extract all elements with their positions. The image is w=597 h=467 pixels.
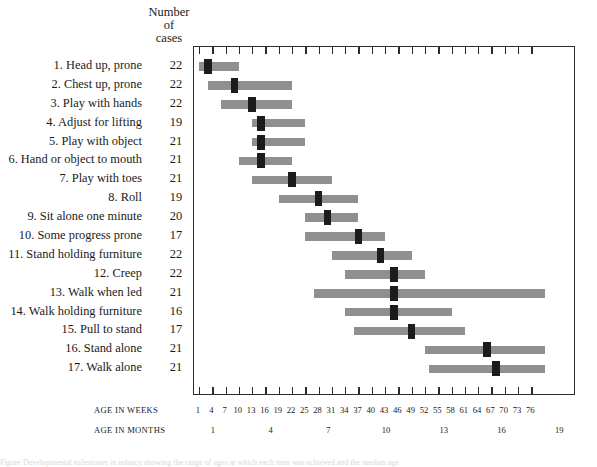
milestone-case-count: 21 bbox=[165, 285, 187, 300]
milestone-label: 16. Stand alone bbox=[65, 341, 142, 356]
milestone-row: 1. Head up, prone22 bbox=[0, 56, 196, 75]
milestone-row: 7. Play with toes21 bbox=[0, 169, 196, 188]
axis-label-months: AGE IN MONTHS bbox=[94, 425, 165, 435]
milestone-median-marker bbox=[231, 78, 239, 93]
axis-value-month-1: 1 bbox=[204, 425, 222, 435]
axis-label-weeks: AGE IN WEEKS bbox=[94, 405, 158, 415]
milestone-row: 5. Play with object21 bbox=[0, 132, 196, 151]
milestone-label: 15. Pull to stand bbox=[61, 322, 142, 337]
milestone-median-marker bbox=[355, 229, 363, 244]
milestone-label: 1. Head up, prone bbox=[54, 58, 142, 73]
milestone-label: 2. Chest up, prone bbox=[51, 77, 142, 92]
bars-layer bbox=[194, 47, 574, 394]
milestone-range-bar bbox=[221, 100, 292, 109]
milestone-case-count: 17 bbox=[165, 228, 187, 243]
milestone-median-marker bbox=[257, 135, 265, 150]
milestone-case-count: 21 bbox=[165, 360, 187, 375]
milestone-case-count: 22 bbox=[165, 266, 187, 281]
milestone-case-count: 21 bbox=[165, 152, 187, 167]
milestone-row: 15. Pull to stand17 bbox=[0, 320, 196, 339]
cases-column-header: Number of cases bbox=[138, 6, 200, 46]
figure-caption-fragment: Figure Developmental milestones in infan… bbox=[0, 458, 597, 467]
milestone-median-marker bbox=[315, 191, 323, 206]
milestone-case-count: 22 bbox=[165, 247, 187, 262]
milestone-median-marker bbox=[483, 342, 491, 357]
milestone-case-count: 19 bbox=[165, 190, 187, 205]
milestone-label: 8. Roll bbox=[108, 190, 142, 205]
milestone-row: 3. Play with hands22 bbox=[0, 94, 196, 113]
milestone-row: 13. Walk when led21 bbox=[0, 283, 196, 302]
chart-plot-area bbox=[193, 46, 575, 395]
milestone-case-count: 22 bbox=[165, 96, 187, 111]
milestone-range-bar bbox=[305, 232, 385, 241]
milestone-row: 17. Walk alone21 bbox=[0, 358, 196, 377]
milestone-range-bar bbox=[208, 81, 292, 90]
milestone-range-bar bbox=[314, 289, 544, 298]
milestone-range-bar bbox=[345, 308, 451, 317]
milestone-row: 4. Adjust for lifting19 bbox=[0, 113, 196, 132]
milestone-row: 10. Some progress prone17 bbox=[0, 226, 196, 245]
milestone-range-bar bbox=[429, 365, 544, 374]
milestone-label: 13. Walk when led bbox=[50, 285, 142, 300]
milestone-range-bar bbox=[305, 213, 358, 222]
milestone-case-count: 17 bbox=[165, 322, 187, 337]
axis-value-month-19: 19 bbox=[550, 425, 568, 435]
milestone-case-count: 21 bbox=[165, 134, 187, 149]
milestone-case-count: 22 bbox=[165, 58, 187, 73]
milestone-case-count: 22 bbox=[165, 77, 187, 92]
milestone-label-list: 1. Head up, prone222. Chest up, prone223… bbox=[0, 56, 196, 377]
milestone-median-marker bbox=[248, 97, 256, 112]
axis-value-week-76: 76 bbox=[521, 405, 539, 415]
milestone-range-bar bbox=[332, 251, 412, 260]
milestone-case-count: 16 bbox=[165, 304, 187, 319]
milestone-label: 10. Some progress prone bbox=[19, 228, 142, 243]
milestone-row: 8. Roll19 bbox=[0, 188, 196, 207]
milestone-label: 14. Walk holding furniture bbox=[10, 304, 142, 319]
milestone-row: 6. Hand or object to mouth21 bbox=[0, 150, 196, 169]
milestone-label: 7. Play with toes bbox=[59, 171, 142, 186]
axis-value-month-4: 4 bbox=[262, 425, 280, 435]
milestone-label: 11. Stand holding furniture bbox=[8, 247, 142, 262]
milestone-median-marker bbox=[390, 286, 398, 301]
milestone-label: 4. Adjust for lifting bbox=[46, 115, 142, 130]
axis-value-month-16: 16 bbox=[493, 425, 511, 435]
milestone-row: 12. Creep22 bbox=[0, 264, 196, 283]
cases-header-line-3: cases bbox=[138, 32, 200, 45]
milestone-label: 3. Play with hands bbox=[50, 96, 142, 111]
milestone-row: 9. Sit alone one minute20 bbox=[0, 207, 196, 226]
milestone-median-marker bbox=[390, 305, 398, 320]
milestone-case-count: 21 bbox=[165, 341, 187, 356]
milestone-row: 11. Stand holding furniture22 bbox=[0, 245, 196, 264]
milestone-median-marker bbox=[377, 248, 385, 263]
milestone-label: 6. Hand or object to mouth bbox=[8, 152, 142, 167]
milestone-median-marker bbox=[257, 153, 265, 168]
milestone-median-marker bbox=[408, 324, 416, 339]
milestone-median-marker bbox=[257, 116, 265, 131]
axis-value-month-13: 13 bbox=[435, 425, 453, 435]
milestone-case-count: 20 bbox=[165, 209, 187, 224]
milestone-range-bar bbox=[345, 270, 425, 279]
milestone-row: 14. Walk holding furniture16 bbox=[0, 302, 196, 321]
axis-value-month-7: 7 bbox=[319, 425, 337, 435]
milestone-median-marker bbox=[390, 267, 398, 282]
milestone-case-count: 21 bbox=[165, 171, 187, 186]
milestone-median-marker bbox=[288, 172, 296, 187]
milestone-label: 12. Creep bbox=[94, 266, 142, 281]
milestone-label: 9. Sit alone one minute bbox=[27, 209, 142, 224]
milestone-label: 17. Walk alone bbox=[68, 360, 142, 375]
milestone-row: 2. Chest up, prone22 bbox=[0, 75, 196, 94]
milestone-label: 5. Play with object bbox=[49, 134, 142, 149]
milestone-row: 16. Stand alone21 bbox=[0, 339, 196, 358]
milestone-range-bar bbox=[239, 157, 292, 166]
milestone-case-count: 19 bbox=[165, 115, 187, 130]
milestone-median-marker bbox=[204, 59, 212, 74]
milestone-median-marker bbox=[324, 210, 332, 225]
axis-value-month-10: 10 bbox=[377, 425, 395, 435]
milestone-median-marker bbox=[492, 361, 500, 376]
